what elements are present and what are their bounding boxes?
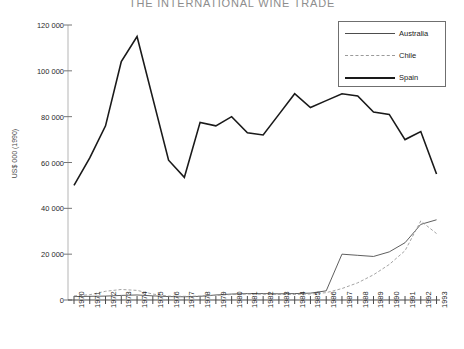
x-axis-tick-label: 1973 (124, 291, 133, 308)
chart-container: THE INTERNATIONAL WINE TRADE US$ 000 (19… (0, 0, 464, 349)
x-axis-tick-label: 1971 (93, 291, 102, 308)
legend-label-spain: Spain (399, 73, 418, 82)
x-axis-tick-label: 1989 (376, 291, 385, 308)
legend-item-spain: Spain (339, 66, 445, 88)
y-axis-tick-label: 20 000 (41, 250, 64, 259)
x-axis-tick-label: 1980 (235, 291, 244, 308)
x-axis-tick-label: 1992 (424, 291, 433, 308)
x-axis-tick-label: 1984 (298, 291, 307, 308)
x-axis-tick-label: 1987 (345, 291, 354, 308)
x-axis-tick-label: 1990 (392, 291, 401, 308)
y-axis-tick-label: 40 000 (41, 204, 64, 213)
legend-label-australia: Australia (399, 29, 428, 38)
x-axis-tick-label: 1978 (203, 291, 212, 308)
y-axis-tick-label: 80 000 (41, 112, 64, 121)
x-axis-tick-label: 1983 (282, 291, 291, 308)
x-axis-tick-label: 1977 (187, 291, 196, 308)
x-axis-tick-label: 1979 (219, 291, 228, 308)
chart-legend: Australia Chile Spain (338, 21, 446, 87)
y-axis-tick-label: 0 (60, 296, 64, 305)
legend-line-australia-icon (345, 28, 395, 38)
x-axis-tick-label: 1975 (156, 291, 165, 308)
x-axis-tick-label: 1988 (361, 291, 370, 308)
x-axis-tick-label: 1991 (408, 291, 417, 308)
legend-line-chile-icon (345, 50, 395, 60)
x-axis-tick-label: 1986 (329, 291, 338, 308)
legend-item-australia: Australia (339, 22, 445, 44)
series-line-chile (74, 221, 437, 296)
x-axis-tick-label: 1970 (77, 291, 86, 308)
legend-label-chile: Chile (399, 51, 416, 60)
series-line-australia (74, 220, 437, 297)
x-axis-tick-label: 1976 (172, 291, 181, 308)
legend-item-chile: Chile (339, 44, 445, 66)
y-axis-tick-label: 120 000 (37, 21, 64, 30)
x-axis-tick-label: 1972 (109, 291, 118, 308)
x-axis-tick-label: 1993 (440, 291, 449, 308)
x-axis-tick-label: 1985 (313, 291, 322, 308)
legend-line-spain-icon (345, 72, 395, 82)
chart-title: THE INTERNATIONAL WINE TRADE (0, 0, 464, 8)
y-axis-tick-label: 100 000 (37, 66, 64, 75)
y-axis-tick-label: 60 000 (41, 158, 64, 167)
x-axis-tick-label: 1982 (266, 291, 275, 308)
x-axis-tick-label: 1981 (250, 291, 259, 308)
y-axis-tick-labels: 020 00040 00060 00080 000100 000120 000 (0, 0, 64, 349)
x-axis-tick-label: 1974 (140, 291, 149, 308)
